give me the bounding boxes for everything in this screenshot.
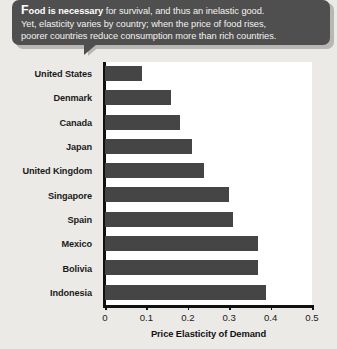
bar-row	[105, 208, 312, 232]
callout-dropcap: F	[21, 3, 29, 17]
x-tick-label: 0.2	[181, 312, 194, 323]
x-tick-label: 0.1	[140, 312, 153, 323]
y-axis-label: Denmark	[0, 86, 98, 110]
callout-line-1-rest: for survival, and thus an inelastic good…	[103, 6, 264, 16]
x-axis-ticks	[105, 305, 312, 311]
callout-tail	[84, 44, 97, 55]
y-axis-label: Mexico	[0, 232, 98, 256]
bar-row	[105, 183, 312, 207]
x-tick	[312, 305, 314, 310]
bar	[105, 260, 258, 275]
figure-root: Food is necessary for survival, and thus…	[0, 0, 337, 349]
callout-box: Food is necessary for survival, and thus…	[12, 0, 330, 45]
bar-row	[105, 281, 312, 305]
y-axis-label: United States	[0, 62, 98, 86]
bar	[105, 236, 258, 251]
x-axis-title: Price Elasticity of Demand	[105, 328, 312, 339]
bar-row	[105, 256, 312, 280]
y-axis-label: Singapore	[0, 183, 98, 207]
bar	[105, 90, 171, 105]
bar-series	[105, 62, 312, 305]
y-axis-label: Canada	[0, 111, 98, 135]
bar-row	[105, 159, 312, 183]
bar-row	[105, 111, 312, 135]
y-axis-label: Japan	[0, 135, 98, 159]
callout-text: Food is necessary for survival, and thus…	[21, 4, 321, 43]
callout-lead: ood is necessary	[29, 6, 104, 16]
bar-row	[105, 62, 312, 86]
x-tick	[105, 305, 107, 310]
x-tick-label: 0.3	[223, 312, 236, 323]
bar	[105, 187, 229, 202]
bar	[105, 115, 180, 130]
x-tick	[146, 305, 148, 310]
callout-line-1: Food is necessary for survival, and thus…	[21, 4, 321, 18]
bar-row	[105, 86, 312, 110]
x-axis-tick-labels: 00.10.20.30.40.5	[0, 312, 337, 326]
y-axis-label: Indonesia	[0, 281, 98, 305]
bar	[105, 285, 266, 300]
x-tick-label: 0.5	[305, 312, 318, 323]
bar	[105, 139, 192, 154]
x-tick	[229, 305, 231, 310]
x-tick	[271, 305, 273, 310]
y-axis-label: Bolivia	[0, 256, 98, 280]
callout-line-2: Yet, elasticity varies by country; when …	[21, 18, 321, 31]
x-tick-label: 0.4	[264, 312, 277, 323]
y-axis-labels: United StatesDenmarkCanadaJapanUnited Ki…	[0, 62, 98, 305]
bar-row	[105, 232, 312, 256]
bar-chart: United StatesDenmarkCanadaJapanUnited Ki…	[0, 56, 337, 349]
x-tick	[188, 305, 190, 310]
y-axis-label: Spain	[0, 208, 98, 232]
x-tick-label: 0	[102, 312, 107, 323]
y-axis-label: United Kingdom	[0, 159, 98, 183]
callout-line-3: poorer countries reduce consumption more…	[21, 30, 321, 43]
bar	[105, 212, 233, 227]
bar	[105, 66, 142, 81]
bar-row	[105, 135, 312, 159]
bar	[105, 163, 204, 178]
